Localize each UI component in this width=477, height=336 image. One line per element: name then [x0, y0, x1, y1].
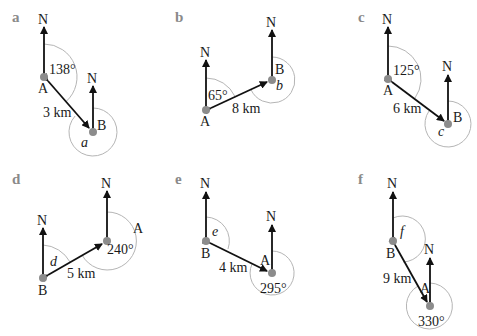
known-bearing: 125°	[393, 63, 420, 78]
point-label-B: B	[453, 110, 462, 125]
panel-label: a	[12, 9, 20, 25]
panel-label: d	[12, 171, 21, 187]
panel-label: b	[175, 9, 183, 25]
point-label-B: B	[97, 118, 106, 133]
point-label-A: A	[420, 281, 431, 296]
point-B	[89, 128, 97, 136]
north-label-A: N	[101, 176, 111, 191]
known-bearing: 295°	[260, 281, 287, 296]
point-B	[39, 274, 47, 282]
distance-label: 3 km	[43, 105, 72, 120]
panel-label: c	[358, 9, 365, 25]
distance-label: 8 km	[232, 101, 261, 116]
north-label-B: N	[442, 59, 452, 74]
point-label-A: A	[38, 81, 49, 96]
panel-label: f	[358, 171, 364, 187]
point-B	[389, 237, 397, 245]
panel-e: e N N 295° B A 4 km e	[175, 171, 294, 296]
north-label-A: N	[38, 12, 48, 27]
bearings-diagram: a N N 138° A B 3 km a b N N 65° A B 8 km…	[0, 0, 477, 336]
known-bearing: 330°	[418, 314, 445, 329]
north-label-B: N	[266, 15, 276, 30]
point-label-B: B	[38, 283, 47, 298]
point-label-B: B	[386, 246, 395, 261]
unknown-bearing: a	[81, 135, 88, 150]
north-label-A: N	[424, 242, 434, 257]
north-label-B: N	[87, 71, 97, 86]
known-bearing: 65°	[208, 88, 228, 103]
unknown-bearing: c	[438, 124, 445, 139]
north-label-A: N	[200, 45, 210, 60]
distance-label: 4 km	[219, 260, 248, 275]
panel-f: f N N 330° B A 9 km f	[358, 171, 452, 329]
point-label-B: B	[201, 246, 210, 261]
point-A	[384, 75, 392, 83]
panel-b: b N N 65° A B 8 km b	[175, 9, 295, 129]
distance-label: 6 km	[393, 101, 422, 116]
known-bearing: 240°	[107, 242, 134, 257]
point-B	[444, 120, 452, 128]
panel-a: a N N 138° A B 3 km a	[12, 9, 117, 156]
distance-label: 9 km	[383, 271, 412, 286]
north-label-B: N	[387, 176, 397, 191]
point-label-A: A	[200, 114, 211, 129]
point-A	[202, 106, 210, 114]
unknown-bearing: f	[400, 224, 406, 239]
point-A	[268, 269, 276, 277]
point-B	[202, 237, 210, 245]
known-bearing: 138°	[49, 62, 76, 77]
point-label-A: A	[260, 253, 271, 268]
panel-c: c N N 125° A B 6 km c	[358, 9, 471, 147]
distance-label: 5 km	[67, 266, 96, 281]
point-A	[426, 302, 434, 310]
north-label-A: N	[266, 209, 276, 224]
point-B	[268, 76, 276, 84]
north-label-B: N	[200, 176, 210, 191]
unknown-bearing: b	[276, 78, 283, 93]
bearing-arc-B	[393, 216, 425, 262]
point-label-A: A	[133, 221, 144, 236]
unknown-bearing: d	[50, 254, 58, 269]
panel-label: e	[175, 171, 182, 187]
unknown-bearing: e	[212, 224, 218, 239]
point-label-B: B	[275, 62, 284, 77]
point-label-A: A	[383, 83, 394, 98]
panel-d: d N N 240° B A 5 km d	[12, 171, 144, 298]
north-label-A: N	[382, 12, 392, 27]
north-label-B: N	[37, 213, 47, 228]
point-A	[40, 73, 48, 81]
